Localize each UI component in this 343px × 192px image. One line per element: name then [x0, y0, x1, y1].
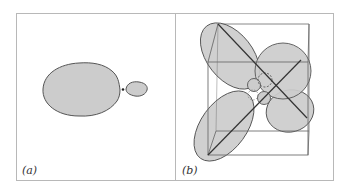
small-lobe [126, 82, 147, 96]
small-lobe-left [248, 79, 261, 92]
panel-b-hybrid-orbitals [182, 12, 319, 172]
lobe-upper-right [255, 43, 311, 99]
panel-a-orbital [43, 63, 147, 116]
large-lobe [43, 63, 120, 116]
panel-b-label: (b) [182, 164, 198, 177]
orbital-figure [0, 0, 343, 192]
panel-a-label: (a) [22, 164, 37, 177]
lobe-lower-left [182, 80, 266, 172]
nucleus-dot [122, 88, 125, 91]
